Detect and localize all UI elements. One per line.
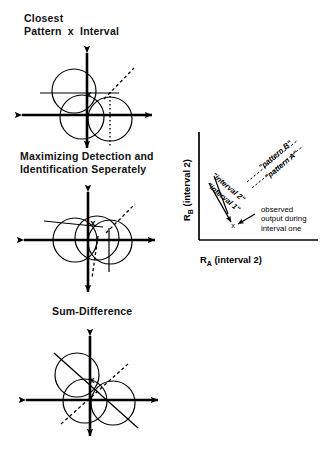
line-vertical-dashed	[92, 236, 98, 278]
figure-vector-layer: x x	[0, 0, 334, 449]
panel-diagram-sum-difference: x	[26, 336, 158, 436]
panel-diagram-maximizing: x	[24, 192, 155, 292]
circle-lower-right	[88, 97, 132, 141]
panel-diagram-closest: x	[22, 53, 152, 148]
circle-lower-right	[91, 381, 135, 425]
right-plot: x "pattern B" "pattern A" "interval 2" "…	[181, 132, 318, 267]
marker-x-closest: x	[86, 88, 92, 99]
marker-x-sum-difference: x	[89, 374, 95, 385]
annotation-line-3: interval one	[261, 224, 301, 233]
line-diagonal-dashed	[106, 204, 135, 233]
figure-root: Closest Pattern x Interval Maximizing De…	[0, 0, 334, 449]
marker-x-maximizing: x	[90, 217, 96, 228]
plot-y-axis-label-suffix: (interval 2)	[181, 159, 192, 209]
plot-x-axis-label: RA (interval 2)	[200, 254, 262, 267]
annotation-observed-output: observed output during interval one	[261, 205, 309, 233]
plot-y-axis-label: RB (interval 2)	[181, 159, 194, 221]
plot-x-axis-label-suffix: (interval 2)	[212, 254, 262, 265]
annotation-line-1: observed	[261, 205, 293, 214]
line-diagonal-boundary	[104, 68, 134, 99]
annotation-line-2: output during	[261, 214, 307, 223]
pointer-observed-output	[238, 214, 255, 224]
marker-x-observed-output: x	[231, 221, 235, 230]
